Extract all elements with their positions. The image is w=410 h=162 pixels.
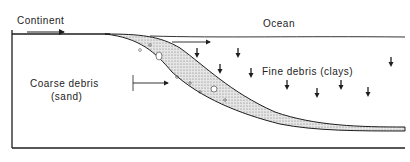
fine-debris-label: Fine debris (clays) <box>262 66 353 77</box>
down-arrow-head-icon <box>315 93 320 98</box>
ocean-label: Ocean <box>263 18 295 29</box>
coarse-debris-label: Coarse debris <box>30 78 99 89</box>
down-arrow-head-icon <box>249 73 254 78</box>
down-arrow-head-icon <box>195 53 200 58</box>
coarse-sediment-wedge <box>105 34 405 131</box>
down-arrow-head-icon <box>285 85 290 90</box>
pebble <box>139 49 142 52</box>
down-arrow-head-icon <box>218 69 223 74</box>
down-arrow-head-icon <box>339 85 344 90</box>
continent-label: Continent <box>17 15 64 26</box>
ocean-surface-line <box>150 36 405 37</box>
down-arrow-head-icon <box>366 92 371 97</box>
down-arrow-head-icon <box>389 62 394 67</box>
pebble <box>211 86 217 92</box>
pebble <box>156 52 162 60</box>
coarse-debris-sublabel: (sand) <box>51 91 82 102</box>
down-arrow-head-icon <box>236 53 241 58</box>
